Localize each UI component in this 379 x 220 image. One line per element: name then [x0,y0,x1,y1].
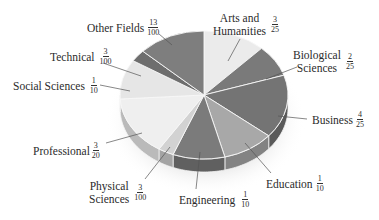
label-education: Education110 [266,175,324,193]
label-arts-humanities: Arts andHumanities325 [213,12,279,38]
label-name: Arts andHumanities [213,12,266,38]
label-engineering: Engineering110 [179,191,249,209]
pie-slices [120,31,288,159]
fraction: 3100 [100,48,112,66]
fraction: 320 [92,142,100,160]
label-name: Education [266,178,313,190]
fraction: 3100 [134,184,146,202]
label-technical: Technical3100 [50,48,112,66]
label-name: Other Fields [87,22,144,34]
label-physical-sciences: PhysicalSciences3100 [89,180,146,206]
label-name: PhysicalSciences [89,180,129,206]
label-professional: Professional320 [33,142,100,160]
label-other-fields: Other Fields13100 [87,19,159,37]
fraction: 110 [316,175,324,193]
fraction: 325 [271,16,279,34]
label-name: BiologicalSciences [293,49,341,75]
label-biological-sciences: BiologicalSciences225 [293,49,354,75]
label-name: Professional [33,145,90,157]
fraction: 110 [241,191,249,209]
fraction: 225 [346,53,354,71]
label-social-sciences: Social Sciences110 [13,77,98,95]
fraction: 13100 [147,19,159,37]
label-name: Business [312,114,353,126]
label-name: Engineering [179,194,235,206]
fraction: 110 [90,77,98,95]
fraction: 425 [356,111,364,129]
label-name: Technical [50,51,95,63]
label-name: Social Sciences [13,80,85,92]
label-business: Business425 [312,111,364,129]
